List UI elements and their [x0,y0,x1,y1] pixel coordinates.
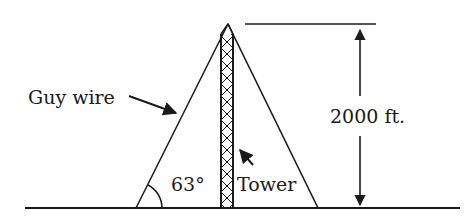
angle-label: 63° [171,173,205,195]
guy-wire-pointer-arrow [129,96,176,113]
angle-arc [148,185,162,208]
tower-label: Tower [237,173,297,195]
guy-wire-label: Guy wire [28,86,115,108]
diagram-canvas: Guy wire 63° Tower 2000 ft. [0,0,475,220]
tower [221,24,233,208]
guy-wire-diagram: Guy wire 63° Tower 2000 ft. [0,0,475,220]
height-label: 2000 ft. [330,105,405,127]
tower-pointer-arrow [240,150,253,165]
tower-lattice [221,34,233,208]
